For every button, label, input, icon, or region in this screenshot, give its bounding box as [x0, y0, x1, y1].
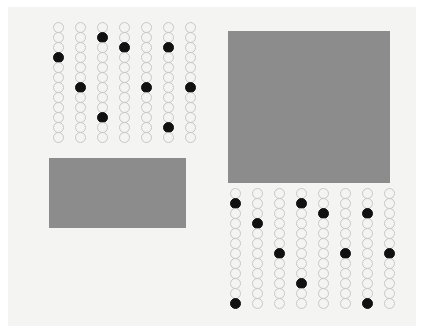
dot-column	[135, 22, 157, 142]
dot-column	[334, 188, 356, 308]
dot-empty	[296, 298, 307, 309]
dot-filled	[230, 298, 241, 309]
dot-column	[113, 22, 135, 142]
dot-column	[224, 188, 246, 308]
left-gray-rectangle	[49, 158, 186, 228]
dot-column	[47, 22, 69, 142]
dot-empty	[141, 132, 152, 143]
dot-empty	[252, 298, 263, 309]
right-gray-square	[228, 31, 390, 183]
dot-column	[356, 188, 378, 308]
dot-filled	[362, 298, 373, 309]
dot-empty	[274, 298, 285, 309]
dot-empty	[75, 132, 86, 143]
figure-title: Abstract dot grid and rectangle composit…	[8, 7, 9, 8]
dot-empty	[53, 132, 64, 143]
dot-empty	[97, 132, 108, 143]
dot-column	[268, 188, 290, 308]
top-left-dot-grid	[47, 22, 201, 142]
dot-empty	[384, 298, 395, 309]
plot-area: Abstract dot grid and rectangle composit…	[8, 7, 416, 326]
figure-canvas: Abstract dot grid and rectangle composit…	[0, 0, 424, 333]
bottom-right-dot-grid	[224, 188, 400, 308]
dot-column	[157, 22, 179, 142]
dot-empty	[119, 132, 130, 143]
dot-column	[69, 22, 91, 142]
dot-column	[179, 22, 201, 142]
dot-column	[312, 188, 334, 308]
dot-empty	[340, 298, 351, 309]
dot-column	[91, 22, 113, 142]
dot-column	[378, 188, 400, 308]
dot-column	[290, 188, 312, 308]
dot-empty	[163, 132, 174, 143]
dot-column	[246, 188, 268, 308]
dot-empty	[318, 298, 329, 309]
dot-empty	[185, 132, 196, 143]
